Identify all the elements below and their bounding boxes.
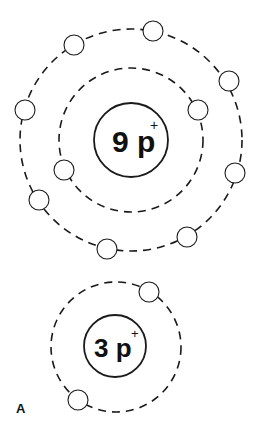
atom-diagram: 9 p + 3 p + A [0,0,261,434]
electron [225,163,245,183]
electron [188,100,208,120]
panel-label: A [16,401,26,416]
electron [64,35,84,55]
electron [68,390,88,410]
atom-bottom: 3 p + [51,282,181,412]
electron [177,227,197,247]
electron [143,21,163,41]
nucleus-label-bottom: 3 p [94,333,132,363]
electron [97,239,117,259]
atom-top: 9 p + [15,21,245,259]
electron [219,71,239,91]
electron [29,190,49,210]
charge-sup-top: + [150,117,158,133]
nucleus-label-top: 9 p [112,125,155,158]
charge-sup-bottom: + [131,326,139,341]
electron [139,282,159,302]
electron [15,100,35,120]
electron [54,160,74,180]
